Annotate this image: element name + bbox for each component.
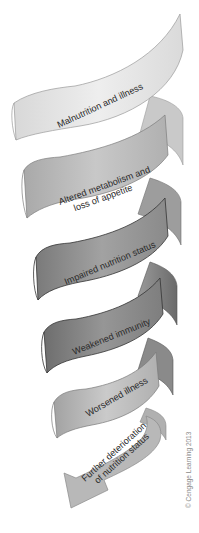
spiral-diagram: Malnutrition and illness Altered metabol… [0, 0, 199, 533]
spiral-graphic: Malnutrition and illness Altered metabol… [0, 0, 199, 533]
copyright-credit: © Cengage Learning 2013 [185, 431, 193, 508]
svg-text:© Cengage Learning 2013: © Cengage Learning 2013 [185, 431, 193, 508]
